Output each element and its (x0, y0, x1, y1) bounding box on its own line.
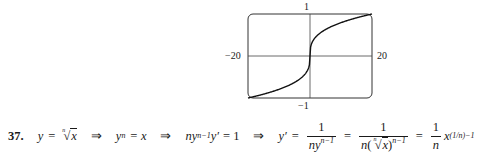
x-max-label: 20 (377, 50, 387, 61)
equals: = (292, 129, 299, 144)
y-prime: y′ (211, 129, 219, 144)
exponent: n−1 (392, 136, 405, 145)
implies-arrow: ⇒ (253, 128, 264, 144)
fraction-1: 1 nyn−1 (307, 120, 336, 153)
nth-root: n √x (372, 138, 389, 153)
y-min-label: −1 (298, 100, 309, 111)
numerator: 1 (431, 120, 441, 136)
root-index: n (62, 127, 65, 133)
equals: = (48, 129, 55, 144)
denominator: n(n √x)n−1 (359, 136, 408, 153)
problem-number: 37. (8, 129, 24, 144)
radicand: x (70, 128, 77, 143)
y-var: y (38, 129, 44, 144)
radicand: x (382, 137, 389, 152)
rhs: = 1 (223, 129, 239, 144)
solution-line: 37. y = n √x ⇒ yn = x ⇒ nyn−1y′ = 1 ⇒ y′… (8, 116, 474, 156)
denominator: nyn−1 (307, 136, 336, 153)
denominator: n (431, 136, 441, 153)
numerator: 1 (378, 120, 388, 136)
implies-arrow: ⇒ (91, 128, 102, 144)
fraction-2: 1 n(n √x)n−1 (359, 120, 408, 153)
numerator: 1 (316, 120, 326, 136)
exponent: n−1 (321, 136, 334, 145)
implies-arrow: ⇒ (160, 128, 171, 144)
fraction-3: 1 n (431, 120, 441, 153)
rhs: = x (129, 129, 146, 144)
graph-svg (0, 0, 491, 110)
function-graph: 1 −1 −20 20 (0, 0, 491, 110)
x-min-label: −20 (225, 50, 241, 61)
x-var: x (444, 129, 450, 144)
equals: = (416, 129, 423, 144)
root-index: n (374, 136, 377, 142)
n-var: n (361, 138, 367, 152)
nth-root: n √x (60, 129, 77, 144)
y-prime: y′ (278, 129, 286, 144)
y-max-label: 1 (304, 1, 309, 12)
denom-text: ny (309, 138, 321, 152)
equals: = (344, 129, 351, 144)
